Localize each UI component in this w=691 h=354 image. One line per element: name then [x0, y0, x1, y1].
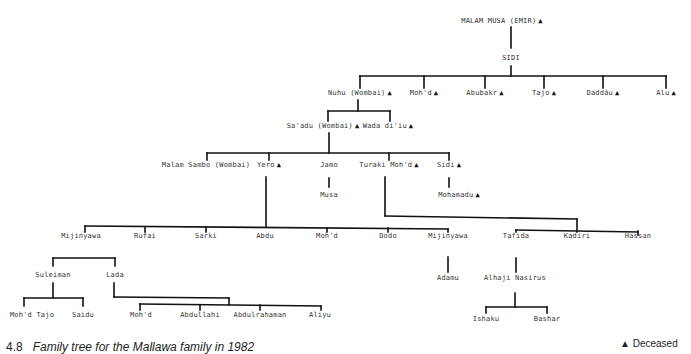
- person-name: Moh'd: [410, 89, 432, 97]
- person-name: Moh'd: [316, 232, 338, 240]
- person-node-adamu: Adamu: [437, 274, 459, 283]
- person-name: Kadiri: [564, 232, 591, 240]
- person-name: Abdu: [256, 232, 274, 240]
- person-node-hassan: Hassan: [625, 232, 652, 241]
- person-name: MALAM MUSA (EMIR): [461, 17, 536, 25]
- person-node-abdullahi: Abdullahi: [180, 311, 220, 320]
- person-name: Bashar: [534, 315, 561, 323]
- person-node-jamo: Jamo: [320, 161, 338, 170]
- person-node-bashar: Bashar: [534, 315, 561, 324]
- person-node-alu: Alu▲: [656, 89, 676, 98]
- person-node-mohd2: Moh'd: [316, 232, 338, 241]
- person-node-alhaji-nasirus: Alhaji Nasirus: [484, 274, 546, 283]
- person-name: Adamu: [437, 274, 459, 282]
- deceased-icon: ▲: [457, 161, 461, 169]
- person-node-lada: Lada: [106, 271, 124, 280]
- deceased-icon: ▲: [414, 161, 418, 169]
- person-node-suleiman: Suleiman: [35, 271, 70, 280]
- figure-title: Family tree for the Mallawa family in 19…: [33, 340, 254, 354]
- person-node-musa: Musa: [320, 191, 338, 200]
- person-name: Moh'd: [130, 311, 152, 319]
- person-node-mohd-tajo: Moh'd Tajo: [10, 311, 54, 320]
- person-name: SIDI: [502, 54, 520, 62]
- deceased-icon: ▲: [615, 89, 619, 97]
- person-name: Daddâu: [587, 89, 614, 97]
- person-name: Mohamadu: [438, 191, 473, 199]
- person-node-nuhu: Nuhu (Wombai)▲: [328, 89, 392, 98]
- person-name: Sidi: [437, 161, 455, 169]
- person-node-mohamadu: Mohamadu▲: [438, 191, 480, 200]
- person-name: Ishaku: [473, 315, 500, 323]
- legend: ▲ Deceased: [620, 338, 678, 349]
- person-name: Musa: [320, 191, 338, 199]
- person-node-abdu: Abdu: [256, 232, 274, 241]
- person-node-tajo: Tajo▲: [532, 89, 556, 98]
- person-node-tafida: Tafida: [503, 232, 530, 241]
- deceased-icon: ▲: [671, 89, 675, 97]
- person-node-malam-musa: MALAM MUSA (EMIR)▲: [461, 17, 542, 26]
- person-name: Lada: [106, 271, 124, 279]
- person-name: Moh'd Tajo: [10, 311, 54, 319]
- person-name: Tajo: [532, 89, 550, 97]
- figure-number: 4.8: [6, 340, 23, 354]
- person-node-abubakr: Abubakr▲: [466, 89, 503, 98]
- person-node-dodo: Dodo: [379, 232, 397, 241]
- connector-line: [140, 304, 321, 306]
- person-name: Tafida: [503, 232, 530, 240]
- person-name: Sa'adu (Wombai): [287, 122, 353, 130]
- legend-label: Deceased: [633, 338, 678, 349]
- person-node-mijinyawa1: Mijinyawa: [61, 232, 101, 241]
- person-node-malam-sambo: Malam Sambo (Wombai): [162, 161, 250, 170]
- deceased-icon: ▲: [499, 89, 503, 97]
- person-name: Abdulrahaman: [234, 311, 287, 319]
- person-name: Aliyu: [309, 311, 331, 319]
- figure-caption: 4.8Family tree for the Mallawa family in…: [6, 340, 254, 354]
- person-name: Dodo: [379, 232, 397, 240]
- deceased-icon: ▲: [277, 161, 281, 169]
- person-node-sarki: Sarki: [195, 232, 217, 241]
- person-name: Jamo: [320, 161, 338, 169]
- deceased-icon: ▲: [409, 122, 413, 130]
- person-node-sidi2: Sidi▲: [437, 161, 461, 170]
- deceased-icon: ▲: [552, 89, 556, 97]
- person-node-kadiri: Kadiri: [564, 232, 591, 241]
- deceased-icon: ▲: [387, 89, 391, 97]
- person-node-saadu: Sa'adu (Wombai)▲: [287, 122, 360, 131]
- person-node-rufai: Rufai: [134, 232, 156, 241]
- person-node-mohd1: Moh'd▲: [410, 89, 439, 98]
- person-node-abdulrahaman: Abdulrahaman: [234, 311, 287, 320]
- connector-line: [114, 297, 229, 298]
- person-node-mohd3: Moh'd: [130, 311, 152, 320]
- person-node-mijinyawa2: Mijinyawa: [428, 232, 468, 241]
- person-name: Abubakr: [466, 89, 497, 97]
- person-name: Alu: [656, 89, 669, 97]
- person-name: Mijinyawa: [428, 232, 468, 240]
- person-name: Alhaji Nasirus: [484, 274, 546, 282]
- person-node-aliyu: Aliyu: [309, 311, 331, 320]
- person-name: Mijinyawa: [61, 232, 101, 240]
- person-node-wada: Wada di'iu▲: [363, 122, 414, 131]
- person-node-saidu: Saidu: [72, 311, 94, 320]
- deceased-icon: ▲: [434, 89, 438, 97]
- person-name: Turaki Moh'd: [359, 161, 412, 169]
- person-name: Malam Sambo (Wombai): [162, 161, 250, 169]
- connector-line: [385, 216, 577, 219]
- person-name: Hassan: [625, 232, 652, 240]
- person-node-yero: Yero▲: [257, 161, 281, 170]
- person-name: Suleiman: [35, 271, 70, 279]
- person-name: Nuhu (Wombai): [328, 89, 385, 97]
- deceased-icon: ▲: [538, 17, 542, 25]
- person-name: Saidu: [72, 311, 94, 319]
- deceased-icon: ▲: [355, 122, 359, 130]
- person-node-sidi-root: SIDI: [502, 54, 520, 63]
- deceased-icon: ▲: [475, 191, 479, 199]
- person-name: Sarki: [195, 232, 217, 240]
- person-name: Wada di'iu: [363, 122, 407, 130]
- person-node-daddau: Daddâu▲: [587, 89, 620, 98]
- person-name: Abdullahi: [180, 311, 220, 319]
- person-name: Yero: [257, 161, 275, 169]
- person-node-ishaku: Ishaku: [473, 315, 500, 324]
- person-node-turaki: Turaki Moh'd▲: [359, 161, 418, 170]
- deceased-icon: ▲: [620, 338, 630, 349]
